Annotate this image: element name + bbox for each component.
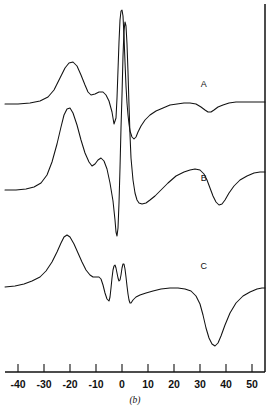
spectra-plot: A B C -40 -30 -20 -10 0 10 20 30 40: [0, 0, 277, 409]
tick-label-0: 0: [119, 378, 125, 390]
panel-label: (b): [129, 395, 140, 406]
spectrum-trace-c: [5, 235, 265, 346]
figure-container: A B C -40 -30 -20 -10 0 10 20 30 40: [0, 0, 277, 409]
x-axis-ticks: [18, 364, 252, 372]
tick-label-30: 30: [194, 378, 206, 390]
tick-label-minus20: -20: [62, 378, 77, 390]
tick-label-20: 20: [168, 378, 180, 390]
trace-label-a: A: [201, 79, 207, 89]
tick-label-50: 50: [246, 378, 258, 390]
spectrum-trace-b: [5, 22, 265, 236]
trace-label-c: C: [201, 261, 208, 271]
tick-label-minus40: -40: [10, 378, 25, 390]
trace-label-b: B: [201, 173, 207, 183]
tick-label-minus10: -10: [88, 378, 103, 390]
x-axis-tick-labels: -40 -30 -20 -10 0 10 20 30 40 50: [10, 378, 258, 390]
tick-label-minus30: -30: [36, 378, 51, 390]
spectrum-trace-a: [5, 10, 265, 139]
tick-label-10: 10: [142, 378, 154, 390]
tick-label-40: 40: [220, 378, 232, 390]
